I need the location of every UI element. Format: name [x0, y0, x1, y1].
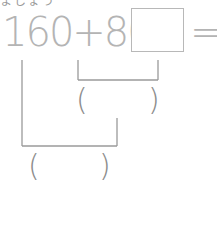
- step2-right-paren: ): [99, 148, 111, 184]
- step2-answer-area[interactable]: [44, 152, 98, 180]
- step2-left-paren: (: [28, 148, 40, 184]
- bracket-step1: [78, 60, 158, 80]
- step1-left-paren: (: [76, 82, 88, 118]
- step1-right-paren: ): [148, 82, 160, 118]
- step1-answer-area[interactable]: [92, 86, 146, 114]
